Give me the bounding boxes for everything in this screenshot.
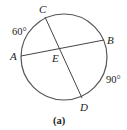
point-label-a: A [9, 50, 17, 62]
point-label-d: D [79, 101, 88, 113]
arc-label-ac: 60° [12, 26, 27, 37]
chord-cd [45, 17, 82, 98]
figure-caption: (a) [53, 115, 66, 127]
point-label-c: C [39, 3, 47, 15]
circle [21, 14, 107, 100]
point-label-b: B [107, 34, 114, 46]
circle-diagram: C 60° A E B 90° D (a) [0, 0, 127, 130]
chord-ab [21, 40, 104, 56]
arc-label-bd: 90° [106, 74, 121, 85]
point-label-e: E [51, 52, 59, 64]
